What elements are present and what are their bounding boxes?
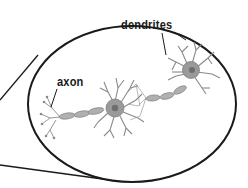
dendrites-label: dendrites [121, 17, 172, 32]
nucleus-right [189, 67, 195, 73]
magnifier-ellipse [28, 26, 236, 182]
axon-label: axon [57, 74, 83, 89]
neuron-diagram: dendrites axon [0, 0, 248, 188]
nucleus-left [112, 105, 118, 111]
